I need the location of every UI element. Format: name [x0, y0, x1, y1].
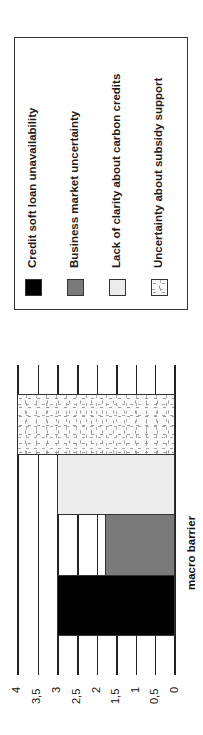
axis-title: macro barrier [185, 516, 197, 590]
legend-label: Lack of clarity about carbon credits [110, 74, 122, 268]
bar-business-market [105, 514, 175, 576]
tick-label-2: 2 [90, 687, 102, 693]
legend-label: Uncertainty about subsidy support [152, 78, 164, 268]
tick-label-4: 4 [10, 687, 22, 693]
tick-label-1.5: 1,5 [109, 689, 121, 704]
bar-carbon-credits [57, 454, 175, 515]
legend-label: Credit soft loan unavailability [26, 108, 38, 268]
bar-credit-soft-loan [57, 575, 175, 636]
plot-area [0, 365, 203, 675]
legend-swatch-darkgray [67, 279, 84, 296]
tick-label-3: 3 [50, 687, 62, 693]
legend-label: Business market uncertainty [68, 111, 80, 268]
chart-legend: Credit soft loan unavailability Business… [14, 37, 188, 310]
tick-label-3.5: 3,5 [30, 689, 42, 704]
bar-subsidy-support [17, 394, 175, 455]
tick-label-0: 0 [168, 687, 180, 693]
legend-swatch-black [25, 279, 42, 296]
tick-label-0.5: 0,5 [148, 689, 160, 704]
tick-label-2.5: 2,5 [70, 689, 82, 704]
tick-label-1: 1 [129, 687, 141, 693]
legend-swatch-lightgray [109, 279, 126, 296]
legend-swatch-hatched [151, 279, 168, 296]
